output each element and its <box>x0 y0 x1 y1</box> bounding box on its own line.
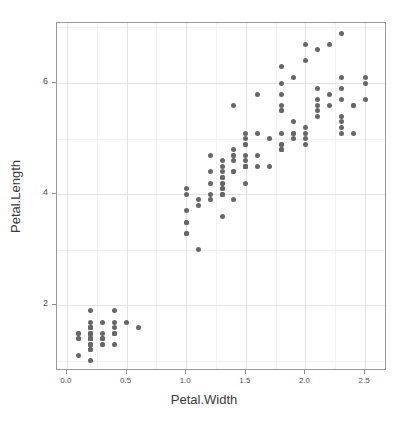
data-point <box>339 86 344 91</box>
data-point <box>196 203 201 208</box>
data-point <box>136 325 141 330</box>
y-axis-tick-label: 6 <box>28 76 48 86</box>
data-point <box>327 92 332 97</box>
data-point <box>303 142 308 147</box>
data-point <box>231 169 236 174</box>
data-point <box>220 181 225 186</box>
data-point <box>231 197 236 202</box>
data-point <box>88 336 93 341</box>
x-axis-tick-label: 2.5 <box>349 376 379 385</box>
data-point <box>279 131 284 136</box>
data-point <box>76 336 81 341</box>
data-point <box>291 119 296 124</box>
data-point <box>112 325 117 330</box>
data-point <box>327 42 332 47</box>
x-axis-title: Petal.Width <box>0 392 408 407</box>
gridline-major-vertical <box>67 23 68 369</box>
y-axis-tick-label: 4 <box>28 187 48 197</box>
data-point <box>220 158 225 163</box>
data-point <box>339 131 344 136</box>
data-point <box>220 186 225 191</box>
data-point <box>339 31 344 36</box>
data-point <box>279 142 284 147</box>
data-point <box>88 358 93 363</box>
data-point <box>279 103 284 108</box>
data-point <box>184 208 189 213</box>
data-point <box>351 131 356 136</box>
data-point <box>184 192 189 197</box>
data-point <box>208 169 213 174</box>
x-axis-title-label: Petal.Width <box>171 392 237 407</box>
y-axis-title: Petal.Length <box>4 0 26 392</box>
x-axis-tick <box>245 370 246 374</box>
data-point <box>220 164 225 169</box>
data-point <box>303 42 308 47</box>
gridline-major-horizontal <box>57 305 385 306</box>
data-point <box>267 164 272 169</box>
data-point <box>112 308 117 313</box>
y-axis-tick <box>52 82 56 83</box>
gridline-major-vertical <box>127 23 128 369</box>
gridline-major-horizontal <box>57 83 385 84</box>
data-point <box>208 197 213 202</box>
x-axis-tick <box>185 370 186 374</box>
data-point <box>88 325 93 330</box>
x-axis-tick <box>364 370 365 374</box>
data-point <box>88 342 93 347</box>
data-point <box>363 97 368 102</box>
data-point <box>315 108 320 113</box>
data-point <box>243 136 248 141</box>
data-point <box>243 153 248 158</box>
data-point <box>315 103 320 108</box>
data-point <box>315 86 320 91</box>
data-point <box>291 136 296 141</box>
data-point <box>100 342 105 347</box>
data-point <box>220 192 225 197</box>
chart-figure: Petal.Length Petal.Width 0.00.51.01.52.0… <box>0 0 408 424</box>
x-axis-tick <box>304 370 305 374</box>
data-point <box>184 231 189 236</box>
data-point <box>100 331 105 336</box>
data-point <box>231 147 236 152</box>
data-point <box>303 131 308 136</box>
data-point <box>315 114 320 119</box>
data-point <box>124 320 129 325</box>
data-point <box>255 164 260 169</box>
data-point <box>112 331 117 336</box>
x-axis-tick <box>66 370 67 374</box>
data-point <box>231 103 236 108</box>
data-point <box>339 125 344 130</box>
data-point <box>208 153 213 158</box>
gridline-major-vertical <box>246 23 247 369</box>
data-point <box>243 181 248 186</box>
data-point <box>220 214 225 219</box>
data-point <box>303 58 308 63</box>
data-point <box>339 97 344 102</box>
data-point <box>339 119 344 124</box>
gridline-minor-vertical <box>97 23 98 369</box>
data-point <box>255 92 260 97</box>
data-point <box>339 114 344 119</box>
data-point <box>351 103 356 108</box>
gridline-minor-horizontal <box>57 27 385 28</box>
y-axis-tick <box>52 304 56 305</box>
data-point <box>196 247 201 252</box>
gridline-major-vertical <box>305 23 306 369</box>
data-point <box>315 47 320 52</box>
data-point <box>76 331 81 336</box>
data-point <box>291 75 296 80</box>
data-point <box>327 103 332 108</box>
x-axis-tick-label: 2.0 <box>289 376 319 385</box>
data-point <box>279 147 284 152</box>
gridline-minor-horizontal <box>57 139 385 140</box>
y-axis-title-label: Petal.Length <box>8 159 23 232</box>
plot-panel <box>56 22 386 370</box>
data-point <box>88 320 93 325</box>
data-point <box>184 220 189 225</box>
gridline-minor-horizontal <box>57 250 385 251</box>
data-point <box>255 131 260 136</box>
gridline-minor-vertical <box>216 23 217 369</box>
x-axis-tick-label: 0.5 <box>111 376 141 385</box>
data-point <box>220 175 225 180</box>
data-point <box>267 136 272 141</box>
